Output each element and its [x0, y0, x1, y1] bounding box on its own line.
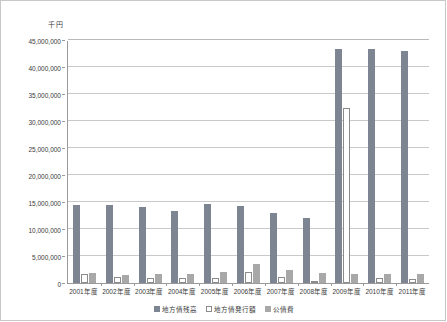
- y-axis-tick-mark: [62, 283, 65, 284]
- bar-group: [199, 41, 232, 283]
- bar: [311, 281, 318, 283]
- bar: [351, 274, 358, 283]
- x-axis-tick-label: 2009年度: [330, 286, 363, 298]
- x-axis-tick-label: 2011年度: [396, 286, 429, 298]
- y-axis-tick-mark: [62, 229, 65, 230]
- x-axis-tick-label: 2010年度: [363, 286, 396, 298]
- legend-item[interactable]: 公債費: [265, 304, 294, 314]
- bar: [106, 205, 113, 283]
- bar-group: [232, 41, 265, 283]
- x-axis-tick-label: 2005年度: [199, 286, 232, 298]
- bar: [319, 273, 326, 283]
- bar-group: [396, 41, 429, 283]
- y-axis-tick-label: 5,000,000: [32, 254, 61, 261]
- bar: [409, 279, 416, 283]
- bar-groups: [68, 41, 429, 283]
- bar-group: [134, 41, 167, 283]
- bar-group: [166, 41, 199, 283]
- y-axis-tick-label: 30,000,000: [28, 119, 61, 126]
- y-axis-tick-mark: [62, 202, 65, 203]
- legend-label: 公債費: [273, 304, 294, 314]
- x-axis-tick-label: 2007年度: [264, 286, 297, 298]
- bar: [368, 49, 375, 283]
- legend-swatch-icon: [265, 306, 271, 312]
- y-axis-tick-label: 40,000,000: [28, 65, 61, 72]
- bar: [384, 274, 391, 283]
- bar-group: [265, 41, 298, 283]
- legend-label: 地方債発行額: [214, 304, 256, 314]
- y-axis-tick-label: 25,000,000: [28, 146, 61, 153]
- y-axis-tick-mark: [62, 256, 65, 257]
- x-axis-tick-label: 2001年度: [67, 286, 100, 298]
- y-axis-labels: 05,000,00010,000,00015,000,00020,000,000…: [1, 41, 65, 284]
- y-axis-tick-mark: [62, 67, 65, 68]
- bar: [286, 270, 293, 284]
- bar: [155, 274, 162, 283]
- y-axis-tick-mark: [62, 40, 65, 41]
- y-axis-tick-mark: [62, 175, 65, 176]
- x-axis-tick-label: 2002年度: [100, 286, 133, 298]
- bar: [139, 207, 146, 283]
- plot-area: [67, 41, 429, 284]
- bar: [179, 278, 186, 283]
- bar: [147, 278, 154, 283]
- y-axis-tick-mark: [62, 148, 65, 149]
- bar: [171, 211, 178, 283]
- y-axis-tick-label: 20,000,000: [28, 173, 61, 180]
- bar-group: [101, 41, 134, 283]
- chart-legend: 地方債残高地方債発行額公債費: [1, 304, 447, 314]
- x-axis-tick-label: 2003年度: [133, 286, 166, 298]
- legend-swatch-icon: [206, 306, 212, 312]
- y-axis-tick-mark: [62, 94, 65, 95]
- x-axis-labels: 2001年度2002年度2003年度2004年度2005年度2006年度2007…: [67, 286, 429, 298]
- bar: [204, 204, 211, 283]
- y-axis-tick-label: 45,000,000: [28, 38, 61, 45]
- bar: [343, 108, 350, 284]
- legend-swatch-icon: [154, 306, 160, 312]
- bar-group: [363, 41, 396, 283]
- bar: [212, 278, 219, 283]
- bar: [253, 264, 260, 283]
- gridline: [68, 39, 429, 40]
- legend-item[interactable]: 地方債残高: [154, 304, 197, 314]
- y-axis-unit-label: 千円: [48, 19, 63, 29]
- y-axis-tick-mark: [62, 121, 65, 122]
- legend-item[interactable]: 地方債発行額: [206, 304, 256, 314]
- bar-group: [331, 41, 364, 283]
- y-axis-tick-label: 15,000,000: [28, 200, 61, 207]
- bar: [401, 51, 408, 283]
- bar: [114, 277, 121, 283]
- bar: [89, 273, 96, 283]
- bar: [417, 274, 424, 283]
- legend-label: 地方債残高: [162, 304, 197, 314]
- bar-group: [298, 41, 331, 283]
- bar: [335, 49, 342, 283]
- bar: [278, 277, 285, 283]
- bar: [220, 272, 227, 283]
- bar-group: [68, 41, 101, 283]
- bar: [270, 213, 277, 283]
- chart-frame: 千円 05,000,00010,000,00015,000,00020,000,…: [0, 0, 446, 321]
- bar: [73, 205, 80, 283]
- bar: [376, 278, 383, 283]
- y-axis-tick-label: 35,000,000: [28, 92, 61, 99]
- bar: [122, 275, 129, 283]
- y-axis-tick-label: 10,000,000: [28, 227, 61, 234]
- x-axis-tick-label: 2008年度: [297, 286, 330, 298]
- x-axis-tick-label: 2006年度: [232, 286, 265, 298]
- bar: [187, 274, 194, 283]
- x-axis-tick-label: 2004年度: [166, 286, 199, 298]
- bar: [81, 274, 88, 283]
- bar: [245, 272, 252, 283]
- bar: [237, 206, 244, 283]
- bar: [303, 218, 310, 283]
- y-axis-tick-label: 0: [57, 281, 61, 288]
